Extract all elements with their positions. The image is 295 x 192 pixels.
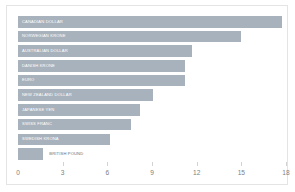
bar-row[interactable]: AUSTRALIAN DOLLAR xyxy=(18,45,286,57)
x-axis-tick-mark xyxy=(286,162,287,166)
bar-row[interactable]: SWISS FRANC xyxy=(18,119,286,131)
x-axis-tick-label: 18 xyxy=(282,169,289,176)
bar-row[interactable]: JAPANESE YEN xyxy=(18,104,286,116)
x-axis-tick-mark xyxy=(152,162,153,166)
bar-row[interactable]: BRITISH POUND xyxy=(18,148,286,160)
bar-row[interactable]: NEW ZEALAND DOLLAR xyxy=(18,89,286,101)
x-axis-tick-label: 15 xyxy=(238,169,245,176)
bar[interactable] xyxy=(18,75,185,87)
bar-category-label: EURO xyxy=(22,76,34,84)
bar-category-label: CANADIAN DOLLAR xyxy=(22,18,63,26)
bar-category-label: DANISH KRONE xyxy=(22,62,55,70)
x-axis-tick-label: 12 xyxy=(193,169,200,176)
chart-frame: CANADIAN DOLLARNORWEGIAN KRONEAUSTRALIAN… xyxy=(6,5,288,185)
bar-row[interactable]: SWEDISH KRONA xyxy=(18,134,286,146)
bar-row[interactable]: EURO xyxy=(18,75,286,87)
bar-category-label: JAPANESE YEN xyxy=(22,106,54,114)
bar-category-label: BRITISH POUND xyxy=(49,150,83,158)
x-axis-tick-mark xyxy=(63,162,64,166)
bar-row[interactable]: NORWEGIAN KRONE xyxy=(18,31,286,43)
bar[interactable] xyxy=(18,148,43,160)
bar-category-label: AUSTRALIAN DOLLAR xyxy=(22,47,68,55)
x-axis-tick-label: 3 xyxy=(61,169,65,176)
bar-category-label: SWEDISH KRONA xyxy=(22,135,59,143)
bar-row[interactable]: DANISH KRONE xyxy=(18,60,286,72)
x-axis-tick-mark xyxy=(197,162,198,166)
x-axis: 0369121518 xyxy=(18,162,286,186)
x-axis-tick-mark xyxy=(107,162,108,166)
bar-category-label: SWISS FRANC xyxy=(22,120,52,128)
bar-category-label: NORWEGIAN KRONE xyxy=(22,32,66,40)
x-axis-tick-label: 6 xyxy=(105,169,109,176)
x-axis-tick-mark xyxy=(241,162,242,166)
x-axis-tick-label: 9 xyxy=(150,169,154,176)
bar-row[interactable]: CANADIAN DOLLAR xyxy=(18,16,286,28)
bar-category-label: NEW ZEALAND DOLLAR xyxy=(22,91,72,99)
bar-chart-plot-area: CANADIAN DOLLARNORWEGIAN KRONEAUSTRALIAN… xyxy=(18,16,286,164)
x-axis-tick-label: 0 xyxy=(16,169,20,176)
